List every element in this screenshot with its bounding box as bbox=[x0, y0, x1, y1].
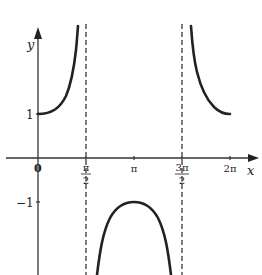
x-tick-label-pi-half-den: 2 bbox=[83, 175, 89, 186]
sec-function-graph: y x 1 −1 0 π 2 π 3π 2 2π bbox=[0, 0, 262, 275]
x-axis-arrow-icon bbox=[248, 154, 259, 162]
x-tick-label-3pi-half-den: 2 bbox=[179, 175, 185, 186]
x-tick-label-3pi-half-num: 3π bbox=[176, 162, 189, 173]
x-tick-label-2pi: 2π bbox=[224, 163, 237, 174]
x-axis-label: x bbox=[247, 163, 255, 178]
curve-branch-1 bbox=[38, 26, 78, 114]
curve-branch-3 bbox=[191, 26, 230, 114]
y-tick-label-neg1: −1 bbox=[16, 196, 34, 210]
y-tick-label-1: 1 bbox=[26, 108, 34, 122]
y-axis-arrow-icon bbox=[34, 27, 42, 39]
x-tick-label-pi: π bbox=[131, 163, 138, 174]
x-tick-label-pi-half-num: π bbox=[83, 162, 90, 173]
curves bbox=[38, 26, 230, 275]
curve-branch-2 bbox=[97, 202, 171, 275]
y-axis-label: y bbox=[26, 37, 35, 52]
axes bbox=[6, 36, 252, 275]
x-tick-label-0: 0 bbox=[34, 162, 42, 175]
asymptotes bbox=[86, 24, 182, 275]
